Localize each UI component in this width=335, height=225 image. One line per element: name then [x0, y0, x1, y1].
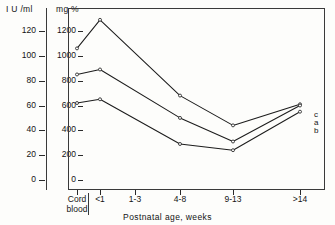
chart-container: I U /ml mg % 020406080100120 02004006008…	[0, 0, 335, 225]
xtickmark-2	[135, 190, 136, 195]
marker-a-4	[299, 104, 302, 107]
marker-b-4	[299, 110, 302, 113]
xtick-4: 9-13	[208, 194, 258, 204]
xtick-2-line1: 1-3	[110, 194, 160, 204]
x-axis-title: Postnatal age, weeks	[0, 212, 335, 222]
marker-b-3	[232, 149, 235, 152]
marker-a-1	[99, 68, 102, 71]
xtickmark-3	[180, 190, 181, 195]
xtickmark-1	[100, 190, 101, 195]
marker-c-3	[232, 124, 235, 127]
marker-b-2	[179, 142, 182, 145]
marker-a-3	[232, 140, 235, 143]
xtick-3: 4-8	[155, 194, 205, 204]
marker-c-0	[76, 47, 79, 50]
xtick-4-line1: 9-13	[208, 194, 258, 204]
xtickmark-5	[300, 190, 301, 195]
plot-lines	[0, 0, 335, 225]
marker-c-1	[99, 18, 102, 21]
marker-b-0	[76, 102, 79, 105]
xtick-5: >14	[275, 194, 325, 204]
marker-a-0	[76, 73, 79, 76]
series-line-b	[77, 99, 300, 150]
series-label-b: b	[314, 126, 318, 135]
series-line-c	[77, 20, 300, 126]
xtick-5-line1: >14	[275, 194, 325, 204]
xtick-2: 1-3	[110, 194, 160, 204]
marker-b-1	[99, 98, 102, 101]
xtick-3-line1: 4-8	[155, 194, 205, 204]
xtickmark-4	[233, 190, 234, 195]
marker-c-2	[179, 94, 182, 97]
marker-a-2	[179, 116, 182, 119]
